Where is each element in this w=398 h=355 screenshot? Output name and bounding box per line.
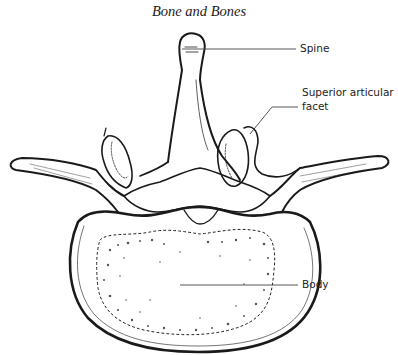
- left-transverse-process: [11, 128, 132, 212]
- right-transverse-process: [218, 127, 389, 212]
- cancellous-texture: [103, 237, 269, 331]
- label-superior-articular-facet-line1: Superior articular: [302, 86, 394, 99]
- vertebra-illustration: [0, 0, 398, 355]
- label-spine: Spine: [300, 42, 329, 55]
- facet-leader: [250, 107, 298, 134]
- spinous-process: [140, 33, 240, 180]
- leader-lines: [180, 49, 298, 285]
- label-body: Body: [302, 278, 329, 291]
- label-superior-articular-facet-line2: facet: [302, 100, 328, 113]
